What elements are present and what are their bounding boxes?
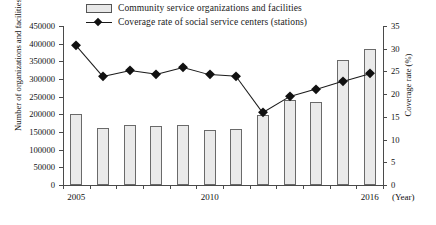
right-axis-tick-label: 25	[391, 66, 415, 76]
chart-legend: Community service organizations and faci…	[86, 2, 307, 28]
x-axis-tick	[250, 185, 251, 189]
line-segment	[76, 45, 104, 77]
right-axis-tick	[383, 26, 387, 27]
right-axis-tick	[383, 71, 387, 72]
x-axis-label-2010: 2010	[201, 192, 219, 202]
bar-2010	[204, 130, 216, 185]
x-axis-label-2016: 2016	[361, 192, 379, 202]
x-axis-tick	[196, 185, 197, 189]
x-axis-tick	[223, 185, 224, 189]
right-axis-tick	[383, 162, 387, 163]
x-axis-tick	[276, 185, 277, 189]
right-axis-tick-label: 15	[391, 112, 415, 122]
chart-figure: Community service organizations and faci…	[0, 0, 436, 225]
legend-label-bars: Community service organizations and faci…	[118, 3, 302, 13]
bar-2013	[284, 100, 296, 185]
right-axis-tick-label: 0	[391, 180, 415, 190]
right-axis-tick	[383, 117, 387, 118]
x-axis-tick	[383, 185, 384, 189]
left-axis-tick	[59, 150, 63, 151]
x-axis-tick	[63, 185, 64, 189]
line-marker-2014	[312, 84, 321, 93]
x-axis-tick	[143, 185, 144, 189]
bar-2005	[70, 114, 82, 185]
x-axis-tick	[90, 185, 91, 189]
right-axis-line	[383, 26, 384, 185]
right-axis-tick-label: 20	[391, 89, 415, 99]
right-axis-tick-label: 5	[391, 157, 415, 167]
x-axis-tick	[356, 185, 357, 189]
bar-2009	[177, 125, 189, 185]
line-segment	[236, 76, 264, 113]
bar-2011	[230, 129, 242, 185]
bar-2007	[124, 125, 136, 185]
right-axis-tick	[383, 49, 387, 50]
bar-2012	[257, 115, 269, 185]
left-axis-tick	[59, 61, 63, 62]
left-axis-tick-label: 150000	[3, 127, 55, 137]
left-axis-tick	[59, 114, 63, 115]
left-axis-tick-label: 250000	[3, 92, 55, 102]
legend-item-bars: Community service organizations and faci…	[86, 2, 307, 14]
left-axis-tick-label: 350000	[3, 56, 55, 66]
line-marker-2009	[178, 62, 187, 71]
x-axis-tick	[330, 185, 331, 189]
left-axis-tick	[59, 97, 63, 98]
right-axis-tick-label: 35	[391, 21, 415, 31]
left-axis-tick	[59, 44, 63, 45]
left-axis-tick	[59, 79, 63, 80]
bar-2008	[150, 126, 162, 185]
left-axis-tick-label: 0	[3, 180, 55, 190]
x-axis-tick	[116, 185, 117, 189]
left-axis-tick-label: 400000	[3, 39, 55, 49]
left-axis-tick-label: 100000	[3, 145, 55, 155]
left-axis-tick	[59, 167, 63, 168]
left-axis-tick-label: 50000	[3, 162, 55, 172]
line-marker-2007	[125, 65, 134, 74]
plot-area: 0500001000001500002000002500003000003500…	[63, 26, 383, 185]
line-marker-2011	[232, 71, 241, 80]
bar-2006	[97, 128, 109, 185]
right-axis-tick-label: 10	[391, 135, 415, 145]
left-axis-tick	[59, 26, 63, 27]
line-marker-2010	[205, 70, 214, 79]
left-axis-tick-label: 450000	[3, 21, 55, 31]
right-axis-tick-label: 30	[391, 44, 415, 54]
x-axis-tick	[303, 185, 304, 189]
bar-swatch-icon	[86, 4, 112, 13]
left-axis-tick-label: 300000	[3, 74, 55, 84]
bar-2014	[310, 102, 322, 185]
right-axis-tick	[383, 140, 387, 141]
line-marker-2006	[98, 71, 107, 80]
left-axis-line	[63, 26, 64, 185]
x-axis-tick	[170, 185, 171, 189]
left-axis-tick	[59, 132, 63, 133]
x-axis-label-2005: 2005	[67, 192, 85, 202]
right-axis-tick	[383, 94, 387, 95]
x-axis-unit-label: (Year)	[392, 192, 415, 202]
line-marker-2008	[152, 69, 161, 78]
left-axis-tick-label: 200000	[3, 109, 55, 119]
